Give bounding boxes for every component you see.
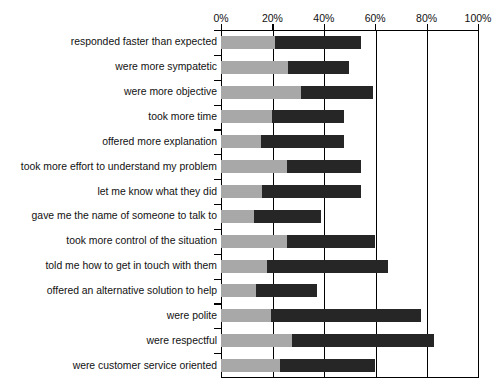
bar-segment-2 [301, 86, 373, 99]
category-label: were customer service oriented [2, 360, 217, 372]
category-label: offered more explanation [2, 136, 217, 148]
y-axis-tick-mark [214, 179, 221, 180]
bar-row: were more objective [0, 80, 498, 105]
bar-segment-1 [221, 334, 292, 347]
x-axis-tick-label: 0% [213, 12, 228, 24]
category-label: took more time [2, 111, 217, 123]
y-axis-tick-mark [214, 55, 221, 56]
y-axis-tick-mark [214, 279, 221, 280]
x-axis-tick-label: 60% [365, 12, 386, 24]
y-axis-tick-mark [214, 328, 221, 329]
bar-segment-1 [221, 160, 287, 173]
category-label: were more objective [2, 86, 217, 98]
category-label: gave me the name of someone to talk to [2, 210, 217, 222]
bar-segment-2 [267, 260, 388, 273]
bar-row: offered more explanation [0, 129, 498, 154]
y-axis-tick-mark [214, 204, 221, 205]
category-label: responded faster than expected [2, 36, 217, 48]
bar-segment-2 [280, 359, 375, 372]
bar-rows: responded faster than expectedwere more … [0, 30, 498, 378]
bar-row: offered an alternative solution to help [0, 279, 498, 304]
bar-segment-2 [287, 160, 362, 173]
x-axis-tick-label: 100% [465, 12, 492, 24]
bar-segment-2 [262, 185, 361, 198]
bar-segment-1 [221, 185, 262, 198]
x-axis-tick-label: 40% [313, 12, 334, 24]
bar-row: took more control of the situation [0, 229, 498, 254]
bar-chart: 0%20%40%60%80%100% responded faster than… [0, 0, 498, 390]
y-axis-tick-mark [214, 129, 221, 130]
category-label: were polite [2, 310, 217, 322]
y-axis-tick-mark [214, 105, 221, 106]
x-axis-tick-labels: 0%20%40%60%80%100% [0, 12, 498, 26]
bar-segment-1 [221, 359, 280, 372]
bar-segment-2 [275, 36, 361, 49]
y-axis-tick-mark [214, 254, 221, 255]
bar-segment-2 [287, 235, 376, 248]
chart-title [108, 0, 408, 7]
bar-segment-1 [221, 284, 256, 297]
y-axis-tick-mark [214, 30, 221, 31]
category-label: let me know what they did [2, 186, 217, 198]
bar-segment-1 [221, 260, 267, 273]
x-axis-tick-label: 80% [416, 12, 437, 24]
bar-segment-2 [271, 309, 421, 322]
x-axis-tick-label: 20% [262, 12, 283, 24]
bar-segment-2 [256, 284, 318, 297]
y-axis-tick-mark [214, 80, 221, 81]
bar-segment-1 [221, 235, 287, 248]
category-label: took more effort to understand my proble… [2, 161, 217, 173]
bar-row: were more sympatetic [0, 55, 498, 80]
bar-segment-1 [221, 210, 254, 223]
bar-segment-1 [221, 61, 288, 74]
category-label: were respectful [2, 335, 217, 347]
category-label: offered an alternative solution to help [2, 285, 217, 297]
bar-row: were polite [0, 303, 498, 328]
y-axis-tick-mark [214, 229, 221, 230]
bar-row: were respectful [0, 328, 498, 353]
bar-segment-2 [254, 210, 321, 223]
bar-row: took more time [0, 105, 498, 130]
bar-row: took more effort to understand my proble… [0, 154, 498, 179]
bar-segment-2 [261, 135, 345, 148]
y-axis-tick-mark [214, 154, 221, 155]
category-label: were more sympatetic [2, 61, 217, 73]
bar-segment-1 [221, 309, 271, 322]
bar-segment-2 [292, 334, 435, 347]
bar-segment-2 [272, 110, 344, 123]
bar-segment-1 [221, 135, 261, 148]
bar-segment-1 [221, 86, 301, 99]
y-axis-tick-mark [214, 303, 221, 304]
bar-segment-1 [221, 36, 275, 49]
bar-segment-1 [221, 110, 272, 123]
category-label: told me how to get in touch with them [2, 260, 217, 272]
bar-row: told me how to get in touch with them [0, 254, 498, 279]
category-label: took more control of the situation [2, 235, 217, 247]
bar-row: were customer service oriented [0, 353, 498, 378]
bar-segment-2 [288, 61, 350, 74]
y-axis-tick-mark [214, 353, 221, 354]
bar-row: let me know what they did [0, 179, 498, 204]
bar-row: responded faster than expected [0, 30, 498, 55]
bar-row: gave me the name of someone to talk to [0, 204, 498, 229]
